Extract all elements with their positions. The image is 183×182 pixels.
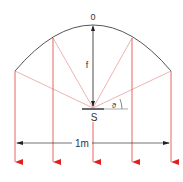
focal-length-arrow: [91, 25, 95, 107]
focal-length-label: f: [86, 60, 89, 70]
angle-label: ϑ: [112, 101, 117, 110]
source-label: S: [91, 112, 98, 123]
parabolic-reflector-diagram: 0 f S ϑ 1m: [0, 0, 183, 182]
aperture-label: 1m: [75, 138, 89, 149]
angle-arc: [120, 99, 122, 109]
vertex-label: 0: [90, 12, 95, 22]
